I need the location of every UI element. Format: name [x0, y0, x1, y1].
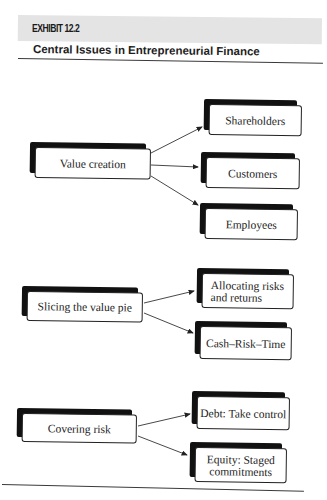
- arrow-covering-to-equity: [138, 436, 187, 455]
- node-label: Cash–Risk–Time: [200, 326, 292, 360]
- arrow-slicing-to-allocating: [144, 291, 194, 303]
- arrow-value-to-shareholders: [151, 127, 202, 153]
- arrow-value-to-employees: [151, 176, 198, 205]
- node-label: Employees: [205, 208, 298, 240]
- node-label: Slicing the value pie: [27, 291, 143, 323]
- node-shareholders: Shareholders: [209, 104, 302, 136]
- node-employees: Employees: [205, 208, 298, 240]
- node-allocating-risks-and-returns: Allocating risks and returns: [202, 273, 294, 309]
- node-value-creation: Value creation: [35, 147, 151, 180]
- node-equity-staged-commitments: Equity: Staged commitments: [195, 447, 287, 483]
- node-label: Debt: Take control: [197, 396, 290, 430]
- node-slicing-the-value-pie: Slicing the value pie: [27, 291, 143, 323]
- node-label: Allocating risks and returns: [202, 273, 294, 309]
- node-label: Customers: [206, 157, 300, 189]
- node-debt-take-control: Debt: Take control: [197, 396, 290, 430]
- arrow-slicing-to-cash-risk-time: [144, 313, 193, 333]
- arrow-value-to-customers: [151, 165, 198, 167]
- arrow-covering-to-debt: [138, 414, 190, 426]
- node-label: Shareholders: [209, 104, 302, 136]
- node-cash-risk-time: Cash–Risk–Time: [200, 326, 292, 360]
- node-customers: Customers: [206, 157, 300, 189]
- node-covering-risk: Covering risk: [22, 413, 137, 444]
- node-label: Equity: Staged commitments: [195, 447, 287, 483]
- node-label: Value creation: [35, 147, 151, 180]
- node-label: Covering risk: [22, 413, 137, 444]
